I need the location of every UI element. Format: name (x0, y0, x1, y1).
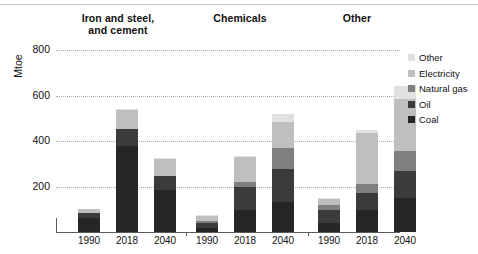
legend-item-coal[interactable]: Coal (408, 112, 478, 128)
bar-segment-electricity (318, 199, 340, 205)
bar-segment-other (234, 156, 256, 157)
bar-segment-electricity (234, 157, 256, 182)
bar-segment-coal (196, 228, 218, 232)
bar-segment-other (154, 158, 176, 159)
bar-segment-oil (234, 187, 256, 211)
legend-swatch-icon (408, 70, 415, 77)
legend-item-other[interactable]: Other (408, 50, 478, 66)
group-title-iron-and-steel: Iron and steel, and cement (63, 12, 173, 36)
x-tick-label-1-2040: 2040 (263, 235, 303, 246)
bar-segment-other (356, 130, 378, 133)
x-tick-label-1-1990: 1990 (187, 235, 227, 246)
bar-segment-electricity (196, 216, 218, 221)
bar-segment-other (318, 198, 340, 199)
bar-segment-other (272, 114, 294, 122)
x-axis-line (56, 232, 400, 233)
bar-segment-other (116, 109, 138, 110)
bar-segment-natural-gas (196, 221, 218, 223)
bar-segment-electricity (78, 209, 100, 213)
plot-area (56, 50, 400, 232)
bar-segment-coal (394, 198, 416, 232)
legend-item-natural-gas[interactable]: Natural gas (408, 81, 478, 97)
bar-segment-oil (116, 129, 138, 146)
stacked-bar-chart: Iron and steel, and cement Chemicals Oth… (0, 0, 478, 254)
bar-segment-coal (272, 202, 294, 232)
x-tick-label-0-2018: 2018 (107, 235, 147, 246)
legend-swatch-icon (408, 101, 415, 108)
bar-segment-oil (272, 169, 294, 202)
bar-segment-natural-gas (394, 151, 416, 170)
group-title-line2: and cement (63, 24, 173, 36)
x-tick-label-2-2018: 2018 (347, 235, 387, 246)
legend-label: Natural gas (419, 83, 468, 94)
bar-segment-coal (116, 146, 138, 232)
legend-label: Coal (419, 114, 439, 125)
bar-segment-coal (78, 218, 100, 232)
legend: OtherElectricityNatural gasOilCoal (408, 50, 478, 128)
bar-segment-natural-gas (318, 205, 340, 211)
group-title-line1: Chemicals (185, 12, 295, 24)
legend-swatch-icon (408, 85, 415, 92)
bar-segment-natural-gas (356, 184, 378, 193)
x-tick-label-1-2018: 2018 (225, 235, 265, 246)
figure-top-divider (0, 4, 478, 5)
bar-segment-other (196, 215, 218, 216)
group-title-line1: Iron and steel, (63, 12, 173, 24)
bar-segment-electricity (272, 122, 294, 148)
bar-segment-oil (78, 213, 100, 218)
bar-segment-oil (318, 210, 340, 223)
x-tick-label-0-1990: 1990 (69, 235, 109, 246)
group-separator-tick-1 (308, 232, 309, 236)
bar-segment-natural-gas (234, 182, 256, 187)
bar-segment-oil (356, 193, 378, 210)
bar-segment-oil (394, 171, 416, 198)
legend-label: Oil (419, 99, 431, 110)
legend-swatch-icon (408, 116, 415, 123)
bar-segment-oil (196, 223, 218, 228)
group-title-chemicals: Chemicals (185, 12, 295, 24)
group-title-line1: Other (312, 12, 402, 24)
group-separator-tick-0 (186, 232, 187, 236)
bar-segment-coal (234, 210, 256, 232)
bar-segment-oil (154, 176, 176, 190)
bar-segment-natural-gas (272, 148, 294, 170)
bar-segment-electricity (356, 133, 378, 184)
y-tick-label-800: 800 (8, 43, 50, 55)
x-tick-label-2-1990: 1990 (309, 235, 349, 246)
legend-swatch-icon (408, 54, 415, 61)
y-tick-label-600: 600 (8, 89, 50, 101)
group-title-other: Other (312, 12, 402, 24)
legend-label: Other (419, 52, 443, 63)
legend-label: Electricity (419, 68, 460, 79)
y-tick-label-400: 400 (8, 134, 50, 146)
y-tick-label-200: 200 (8, 180, 50, 192)
bar-segment-electricity (116, 110, 138, 128)
bar-segment-coal (154, 190, 176, 232)
x-tick-label-2-2040: 2040 (385, 235, 425, 246)
x-tick-label-0-2040: 2040 (145, 235, 185, 246)
legend-item-oil[interactable]: Oil (408, 97, 478, 113)
legend-item-electricity[interactable]: Electricity (408, 66, 478, 82)
bar-segment-electricity (154, 159, 176, 176)
bar-segment-coal (318, 223, 340, 232)
bar-segment-coal (356, 210, 378, 232)
